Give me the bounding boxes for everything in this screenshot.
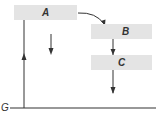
box-a-label: A (42, 7, 49, 18)
box-c: C (91, 55, 152, 70)
box-a: A (14, 5, 77, 20)
box-c-label: C (118, 57, 125, 68)
curved-arrow-icon (78, 13, 104, 24)
box-b: B (91, 24, 152, 39)
box-b-label: B (122, 26, 129, 37)
ground-label: G (1, 102, 9, 113)
